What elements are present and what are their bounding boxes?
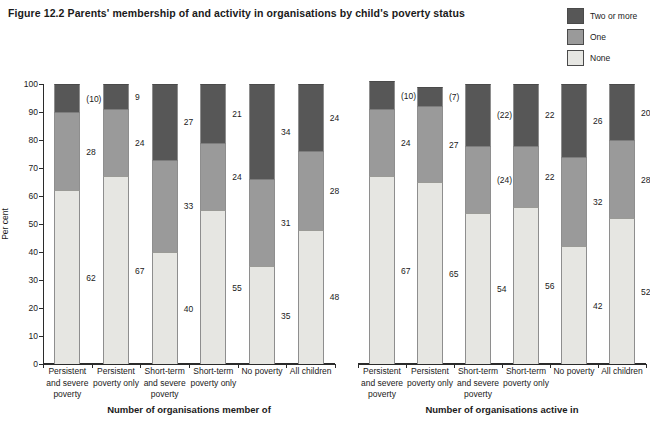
stacked-bar[interactable]: 552421 xyxy=(200,84,226,364)
x-axis-category-label: Short-term poverty only xyxy=(189,366,238,389)
segment-one[interactable]: 24 xyxy=(200,143,226,210)
x-axis-category-label: All children xyxy=(598,366,646,378)
segment-none[interactable]: 35 xyxy=(249,266,275,364)
x-axis-tick-mark xyxy=(238,364,239,368)
x-axis-tick-mark xyxy=(502,364,503,368)
segment-two-or-more[interactable]: 20 xyxy=(609,84,635,140)
legend: Two or more One None xyxy=(567,8,637,71)
segment-two-or-more[interactable]: 34 xyxy=(249,84,275,179)
x-axis-tick-mark xyxy=(454,364,455,368)
segment-one[interactable]: 33 xyxy=(152,160,178,252)
bar-slot: 54(24)(22) xyxy=(454,84,502,364)
segment-none[interactable]: 40 xyxy=(152,252,178,364)
segment-value-label: 28 xyxy=(330,186,339,196)
legend-item-one: One xyxy=(567,29,637,45)
segment-two-or-more[interactable]: (22) xyxy=(465,84,491,146)
segment-value-label: 20 xyxy=(641,108,650,118)
chart-panel-member-of: Per cent 0102030405060708090100 6228(10)… xyxy=(43,84,335,364)
y-axis-tick-label: 100 xyxy=(2,79,43,89)
bar-slot: 423226 xyxy=(550,84,598,364)
bar-group-active-in: 6724(10)6527(7)54(24)(22)562222423226522… xyxy=(358,84,646,364)
segment-none[interactable]: 42 xyxy=(561,246,587,364)
segment-two-or-more[interactable]: 26 xyxy=(561,84,587,157)
x-axis-title-active-in: Number of organisations active in xyxy=(358,404,646,415)
segment-one[interactable]: 31 xyxy=(249,179,275,266)
bar-slot: 552421 xyxy=(189,84,238,364)
legend-item-two-or-more: Two or more xyxy=(567,8,637,24)
segment-two-or-more[interactable]: 24 xyxy=(298,84,324,151)
x-axis-category-label: Short-term and severe poverty xyxy=(140,366,189,401)
x-axis-tick-mark xyxy=(550,364,551,368)
segment-none[interactable]: 62 xyxy=(54,190,80,364)
bar-slot: 403327 xyxy=(140,84,189,364)
legend-item-none: None xyxy=(567,50,637,66)
x-axis-tick-mark xyxy=(92,364,93,368)
stacked-bar[interactable]: 562222 xyxy=(513,84,539,364)
stacked-bar[interactable]: 6724(10) xyxy=(369,84,395,364)
legend-label-none: None xyxy=(590,53,610,63)
bar-slot: 6527(7) xyxy=(406,84,454,364)
y-axis-tick-label: 40 xyxy=(2,247,43,257)
segment-one[interactable]: 32 xyxy=(561,157,587,247)
x-axis-tick-mark xyxy=(335,364,336,368)
x-axis-category-label: Short-term and severe poverty xyxy=(454,366,502,401)
legend-swatch-one xyxy=(567,29,584,45)
y-axis-tick-label: 20 xyxy=(2,303,43,313)
bar-slot: 6228(10) xyxy=(43,84,92,364)
segment-none[interactable]: 67 xyxy=(103,176,129,364)
segment-none[interactable]: 52 xyxy=(609,218,635,364)
legend-swatch-two-or-more xyxy=(567,8,584,24)
stacked-bar[interactable]: 423226 xyxy=(561,84,587,364)
segment-one[interactable]: 28 xyxy=(54,112,80,190)
bar-slot: 67249 xyxy=(92,84,141,364)
segment-two-or-more[interactable]: 9 xyxy=(103,84,129,109)
segment-none[interactable]: 67 xyxy=(369,176,395,364)
stacked-bar[interactable]: 403327 xyxy=(152,84,178,364)
segment-value-label: 24 xyxy=(330,113,339,123)
segment-one[interactable]: 28 xyxy=(609,140,635,218)
segment-value-label: 28 xyxy=(641,175,650,185)
stacked-bar[interactable]: 54(24)(22) xyxy=(465,84,491,364)
segment-two-or-more[interactable]: (10) xyxy=(369,81,395,109)
segment-one[interactable]: 28 xyxy=(298,151,324,229)
stacked-bar[interactable]: 6228(10) xyxy=(54,84,80,364)
bar-slot: 562222 xyxy=(502,84,550,364)
stacked-bar[interactable]: 482824 xyxy=(298,84,324,364)
segment-none[interactable]: 48 xyxy=(298,230,324,364)
segment-two-or-more[interactable]: 27 xyxy=(152,84,178,160)
segment-one[interactable]: 24 xyxy=(369,109,395,176)
x-axis-category-label: Short-term poverty only xyxy=(502,366,550,389)
stacked-bar[interactable]: 353134 xyxy=(249,84,275,364)
x-axis-category-label: No poverty xyxy=(550,366,598,378)
segment-none[interactable]: 54 xyxy=(465,213,491,364)
segment-two-or-more[interactable]: (7) xyxy=(417,87,443,107)
y-axis-tick-label: 70 xyxy=(2,163,43,173)
segment-one[interactable]: 22 xyxy=(513,146,539,208)
stacked-bar[interactable]: 6527(7) xyxy=(417,84,443,364)
segment-none[interactable]: 55 xyxy=(200,210,226,364)
y-axis-tick-label: 0 xyxy=(2,359,43,369)
y-axis-tick-label: 50 xyxy=(2,219,43,229)
segment-two-or-more[interactable]: 21 xyxy=(200,84,226,143)
segment-two-or-more[interactable]: (10) xyxy=(54,84,80,112)
stacked-bar[interactable]: 67249 xyxy=(103,84,129,364)
x-axis-tick-mark xyxy=(646,364,647,368)
segment-one[interactable]: 24 xyxy=(103,109,129,176)
stacked-bar[interactable]: 522820 xyxy=(609,84,635,364)
bar-slot: 353134 xyxy=(238,84,287,364)
segment-none[interactable]: 65 xyxy=(417,182,443,364)
segment-one[interactable]: 27 xyxy=(417,106,443,182)
segment-none[interactable]: 56 xyxy=(513,207,539,364)
bar-slot: 6724(10) xyxy=(358,84,406,364)
x-axis-category-label: Persistent and severe poverty xyxy=(358,366,406,401)
segment-one[interactable]: (24) xyxy=(465,146,491,213)
x-axis-tick-mark xyxy=(43,364,44,368)
x-axis-category-label: Persistent poverty only xyxy=(92,366,141,389)
segment-value-label: 9 xyxy=(135,92,140,102)
x-axis-category-label: Persistent and severe poverty xyxy=(43,366,92,401)
y-axis-tick-label: 30 xyxy=(2,275,43,285)
y-axis-tick-label: 80 xyxy=(2,135,43,145)
bar-slot: 482824 xyxy=(286,84,335,364)
x-axis-category-label: Persistent poverty only xyxy=(406,366,454,389)
segment-two-or-more[interactable]: 22 xyxy=(513,84,539,146)
